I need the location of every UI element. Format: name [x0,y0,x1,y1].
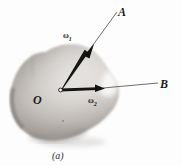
axis-line-a [90,12,117,49]
scan-speck [62,120,64,122]
figure-caption: (a) [52,150,64,161]
label-axis-a: A [118,6,126,18]
rigid-body-shape [10,44,119,147]
label-origin-o: O [33,94,42,106]
label-omega-2: ω2 [88,97,97,107]
figure-canvas [0,0,182,166]
figure-angular-velocity: A B O ω1 ω2 (a) [0,0,182,166]
label-omega-1-subscript: 1 [69,36,72,42]
label-omega-1: ω1 [63,32,72,42]
label-omega-2-subscript: 2 [94,101,97,107]
label-axis-b: B [160,78,168,90]
origin-point-marker [59,88,63,92]
